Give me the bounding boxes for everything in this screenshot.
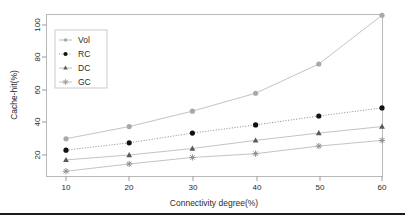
circle-filled-icon (127, 140, 132, 145)
x-tick-label-50: 50 (316, 183, 325, 192)
x-tick-label-30: 30 (189, 183, 198, 192)
legend-label-rc: RC (78, 49, 90, 59)
star-icon (253, 151, 259, 157)
chart-svg: 100 80 60 40 20 10 20 30 40 50 60 Cache-… (0, 0, 405, 220)
chart-legend: Vol RC DC GC (55, 30, 107, 88)
y-tick-label-40: 40 (33, 117, 42, 126)
star-icon (379, 137, 385, 143)
circle-filled-icon (253, 122, 258, 127)
circle-open-gray-icon (64, 38, 68, 42)
legend-label-dc: DC (78, 63, 90, 73)
y-axis-title: Cache-hit(%) (9, 70, 19, 120)
star-icon (189, 154, 195, 160)
star-icon (316, 143, 322, 149)
y-tick-label-60: 60 (33, 85, 42, 94)
y-tick-label-80: 80 (33, 52, 42, 61)
circle-open-gray-icon (127, 124, 132, 129)
circle-open-gray-icon (253, 91, 258, 96)
x-tick-label-10: 10 (62, 183, 71, 192)
x-tick-label-20: 20 (125, 183, 134, 192)
y-tick-label-100: 100 (33, 18, 42, 32)
x-tick-label-40: 40 (253, 183, 262, 192)
circle-filled-icon (63, 52, 67, 56)
star-icon (63, 79, 69, 85)
x-axis-title: Connectivity degree(%) (170, 198, 259, 208)
circle-filled-icon (316, 113, 321, 118)
circle-filled-icon (379, 105, 384, 110)
circle-open-gray-icon (190, 109, 195, 114)
circle-open-gray-icon (63, 136, 68, 141)
circle-filled-icon (63, 148, 68, 153)
legend-label-gc: GC (78, 77, 91, 87)
legend-label-vol: Vol (78, 35, 90, 45)
chart-figure: 100 80 60 40 20 10 20 30 40 50 60 Cache-… (0, 0, 405, 220)
x-tick-label-60: 60 (378, 183, 387, 192)
circle-open-gray-icon (379, 13, 384, 18)
star-icon (126, 161, 132, 167)
star-icon (63, 168, 69, 174)
y-tick-label-20: 20 (33, 150, 42, 159)
circle-open-gray-icon (316, 61, 321, 66)
circle-filled-icon (190, 130, 195, 135)
